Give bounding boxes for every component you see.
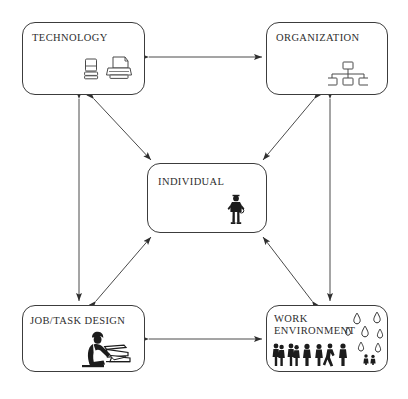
node-label-work-environment: WORK ENVIRONMENT: [274, 313, 355, 337]
seated-worker-icon: [76, 331, 134, 373]
node-label-organization: ORGANIZATION: [276, 32, 360, 44]
person-icon: [226, 193, 246, 229]
node-label-individual: INDIVIDUAL: [158, 176, 224, 188]
arrow-jobtask-individual: [96, 237, 151, 301]
arrow-organization-individual: [263, 99, 314, 160]
crowd-icon: [272, 342, 350, 372]
computer-icon: [84, 58, 99, 84]
diagram-canvas: TECHNOLOGY ORGANIZATION INDIVIDUAL JOB/T…: [0, 0, 408, 399]
arrow-workenvironment-individual: [263, 237, 312, 301]
arrow-technology-individual: [94, 99, 151, 160]
node-individual[interactable]: [147, 163, 267, 233]
node-label-job-task-design: JOB/TASK DESIGN: [30, 315, 125, 327]
org-chart-icon: [328, 61, 368, 93]
printer-icon: [105, 56, 133, 85]
node-label-technology: TECHNOLOGY: [32, 32, 108, 44]
rain-drops-icon: [345, 309, 387, 369]
